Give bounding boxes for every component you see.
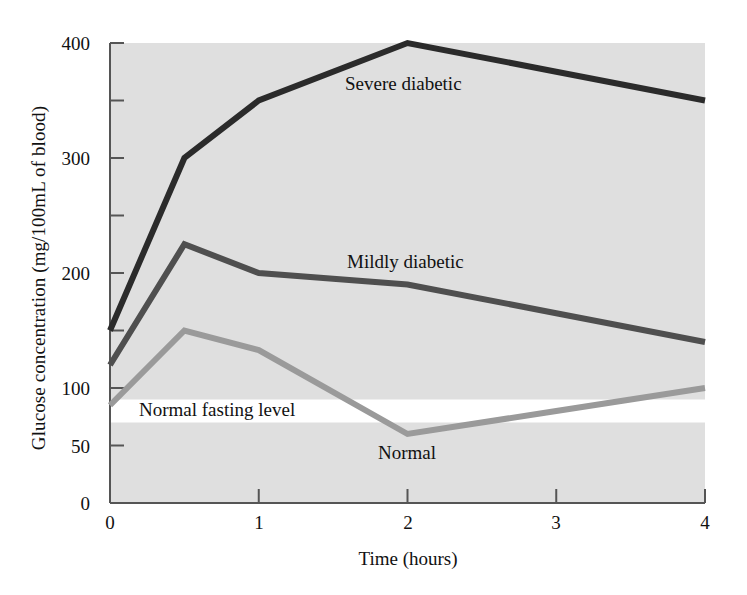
x-tick-label-0: 0 [90, 513, 130, 532]
glucose-tolerance-chart: 400 300 200 100 50 0 0 1 2 3 4 Glucose c… [0, 0, 747, 595]
x-tick-label-2: 2 [388, 513, 428, 532]
series-label-normal: Normal [378, 443, 436, 462]
x-tick-label-1: 1 [239, 513, 279, 532]
band-label-normal-fasting-level: Normal fasting level [139, 400, 295, 419]
y-axis-title: Glucose concentration (mg/100mL of blood… [28, 18, 54, 538]
series-label-mildly-diabetic: Mildly diabetic [347, 252, 464, 271]
x-tick-label-4: 4 [685, 513, 725, 532]
x-axis-title: Time (hours) [110, 548, 706, 570]
x-tick-label-3: 3 [536, 513, 576, 532]
series-label-severe-diabetic: Severe diabetic [345, 74, 462, 93]
